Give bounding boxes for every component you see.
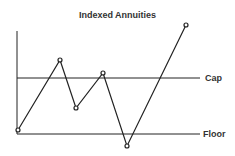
- floor-label: Floor: [203, 129, 226, 139]
- chart-plot: Cap Floor: [0, 0, 235, 156]
- cap-label: Cap: [205, 73, 223, 83]
- data-markers: [16, 23, 188, 148]
- series-line: [18, 25, 186, 146]
